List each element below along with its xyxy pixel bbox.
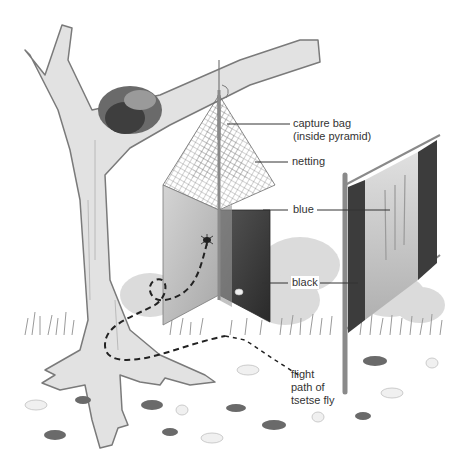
screen-black-left bbox=[348, 180, 365, 333]
label-flight-line1: flight bbox=[291, 368, 334, 381]
label-flight-line2: path of bbox=[291, 381, 334, 394]
label-netting: netting bbox=[292, 155, 325, 168]
label-black: black bbox=[291, 276, 319, 289]
label-flight-path: flight path of tsetse fly bbox=[291, 368, 334, 407]
label-flight-line3: tsetse fly bbox=[291, 394, 334, 407]
nest bbox=[98, 86, 162, 134]
label-capture-bag: capture bag (inside pyramid) bbox=[293, 117, 371, 143]
label-blue: blue bbox=[292, 203, 315, 216]
label-capture-bag-line1: capture bag bbox=[293, 117, 371, 130]
screen-black-right bbox=[418, 140, 437, 280]
illustration-canvas bbox=[0, 0, 463, 467]
blue-panel bbox=[163, 185, 219, 325]
label-capture-bag-line2: (inside pyramid) bbox=[293, 130, 371, 143]
tsetse-trap-illustration: capture bag (inside pyramid) netting blu… bbox=[0, 0, 463, 467]
screen-target bbox=[345, 135, 440, 392]
